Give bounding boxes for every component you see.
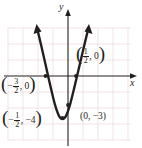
- fraction: 12: [14, 112, 20, 130]
- paren-close: ): [99, 43, 105, 64]
- label-x-intercept-left: (−32, 0): [1, 78, 36, 96]
- fraction-denominator: 2: [14, 120, 20, 129]
- point-vertex: [61, 116, 65, 120]
- curve-arrow-left: [34, 24, 42, 34]
- fraction-numerator: 1: [14, 112, 20, 120]
- parabola-curve: [34, 24, 93, 119]
- coordinate-tail: , −4: [21, 115, 36, 125]
- fraction: 32: [13, 78, 19, 96]
- paren-close: ): [29, 73, 35, 94]
- point-y-intercept: [66, 103, 70, 107]
- fraction-denominator: 2: [13, 86, 19, 95]
- label-x-intercept-right: (12, 0): [76, 48, 105, 66]
- fraction-denominator: 2: [83, 56, 89, 65]
- paren-open: (: [1, 73, 7, 94]
- paren-open: (: [76, 43, 82, 64]
- axis-label-y: y: [59, 2, 63, 12]
- coordinate-tail: , 0: [89, 51, 99, 61]
- label-vertex: (−12, −4): [2, 112, 42, 130]
- axis-label-x: x: [130, 78, 134, 88]
- point-x-intercept-left: [44, 74, 48, 78]
- point-x-intercept-right: [74, 74, 78, 78]
- fraction-numerator: 3: [13, 78, 19, 86]
- paren-close: ): [36, 107, 42, 128]
- sign-text: −: [8, 115, 13, 125]
- curve-arrow-right: [85, 24, 93, 34]
- paren-open: (: [2, 107, 8, 128]
- parabola-graph-figure: y x (−32, 0) (12, 0) (0, −3) (−12, −4): [0, 0, 142, 148]
- fraction-numerator: 1: [83, 48, 89, 56]
- fraction: 12: [83, 48, 89, 66]
- label-y-intercept: (0, −3): [80, 112, 106, 122]
- sign-text: −: [7, 81, 12, 91]
- coordinate-tail: , 0: [20, 81, 30, 91]
- y-axis: [65, 9, 71, 146]
